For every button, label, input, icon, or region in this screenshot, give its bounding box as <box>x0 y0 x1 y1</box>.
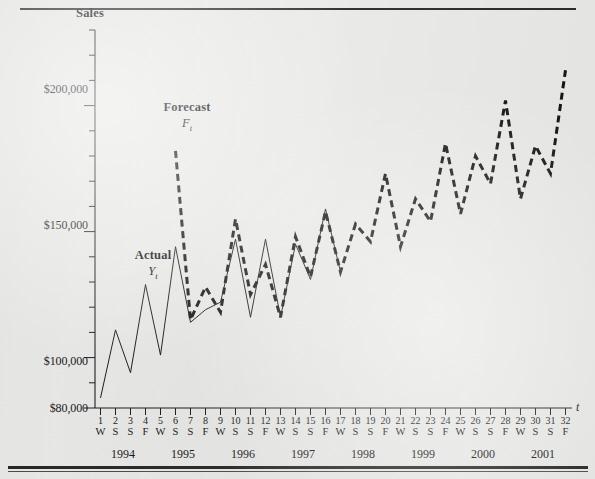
y-tick-label-150000: $150,000 <box>14 218 88 233</box>
figure-container: Sales t $200,000 $150,000 $100,000 $80,0… <box>0 0 595 479</box>
annotation-forecast-symbol: Ft <box>152 116 222 133</box>
x-tick-period-number: 32 <box>556 415 576 426</box>
y-tick-label-200000: $200,000 <box>14 82 88 97</box>
series-line-forecast <box>176 70 566 319</box>
bottom-rule-thin <box>8 471 588 472</box>
chart-plot-area <box>0 0 595 479</box>
x-axis-title: t <box>576 400 579 415</box>
x-tick-season-letter: F <box>556 426 576 437</box>
bottom-rule-thick <box>8 466 588 469</box>
y-axis-title: Sales <box>76 6 104 21</box>
annotation-forecast-name: Forecast <box>152 100 222 115</box>
x-axis-year-2001: 2001 <box>508 447 578 462</box>
annotation-actual-symbol: Yt <box>124 264 182 281</box>
y-tick-label-80000: $80,000 <box>14 401 88 416</box>
y-tick-label-100000: $100,000 <box>14 354 88 369</box>
x-tick-label-32: 32F <box>556 415 576 437</box>
annotation-actual-name: Actual <box>124 248 182 263</box>
x-axis-ticks <box>101 408 566 415</box>
annotation-forecast: Forecast Ft <box>152 100 222 133</box>
annotation-actual: Actual Yt <box>124 248 182 281</box>
axis-lines <box>95 30 572 408</box>
